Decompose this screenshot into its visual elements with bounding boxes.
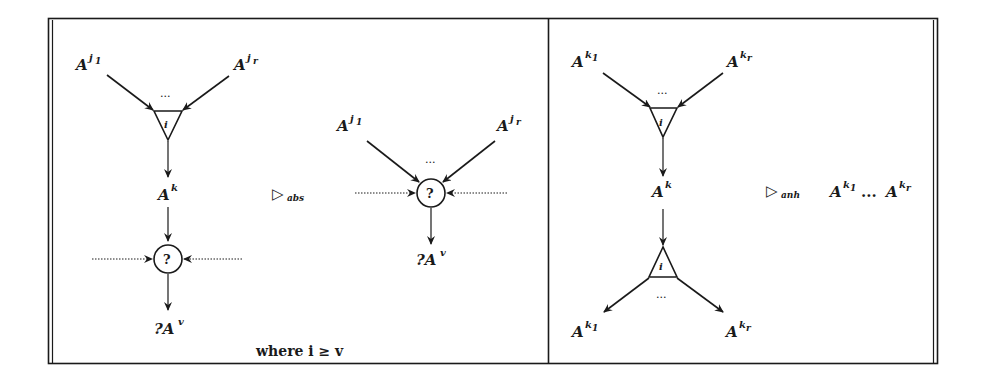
svg-text:A: A — [495, 117, 509, 135]
svg-text:...: ... — [861, 183, 877, 201]
edge-out-right — [677, 278, 723, 312]
svg-text:j: j — [348, 113, 354, 124]
rewrite-rules-diagram: A j 1 A j r ... i A k ? ?A v ▷ abs A j 1… — [0, 0, 987, 387]
svg-text:r: r — [253, 56, 259, 66]
figure-frame — [49, 18, 938, 364]
abs-rule-lhs: A j 1 A j r ... i A k ? ?A v — [74, 52, 259, 338]
svg-text:?: ? — [426, 186, 434, 201]
svg-text:A: A — [156, 186, 170, 204]
svg-text:j: j — [245, 52, 251, 63]
svg-text:i: i — [164, 119, 168, 130]
input-label-ajr: A — [232, 56, 246, 74]
svg-text:A: A — [570, 53, 584, 71]
edge-in-right — [183, 76, 229, 110]
svg-text:k: k — [665, 179, 672, 190]
edge-in-right — [678, 73, 723, 107]
anh-rule-lhs: A k 1 A k r ... i A k i ... A k 1 A k r — [570, 49, 753, 341]
svg-text:r: r — [747, 53, 753, 63]
svg-text:j: j — [508, 113, 514, 124]
triangle-node-top — [650, 108, 677, 137]
svg-text:k: k — [585, 319, 592, 330]
svg-text:anh: anh — [781, 190, 800, 200]
abs-rule-rhs: A j 1 A j r ... ? ?A v — [335, 113, 522, 269]
svg-text:A: A — [724, 323, 738, 341]
svg-text:abs: abs — [287, 193, 304, 203]
svg-text:1: 1 — [592, 53, 598, 63]
svg-text:?A: ?A — [154, 320, 174, 338]
anh-rule-rhs: A k 1 ... A k r — [828, 179, 912, 201]
svg-text:i: i — [659, 261, 663, 272]
svg-text:1: 1 — [356, 117, 362, 127]
edge-out-left — [604, 278, 649, 312]
triangle-node-bottom — [649, 247, 677, 277]
svg-text:k: k — [585, 49, 592, 60]
svg-text:j: j — [87, 52, 93, 63]
svg-text:k: k — [899, 179, 906, 190]
svg-text:1: 1 — [850, 183, 856, 193]
svg-text:...: ... — [425, 153, 436, 166]
svg-text:r: r — [906, 183, 912, 193]
edge-in-left — [603, 73, 650, 107]
svg-text:...: ... — [657, 84, 668, 97]
svg-text:A: A — [725, 53, 739, 71]
svg-text:k: k — [171, 182, 178, 193]
svg-text:1: 1 — [95, 56, 101, 66]
svg-text:v: v — [440, 247, 446, 258]
svg-text:i: i — [659, 117, 663, 128]
edge-in-right — [443, 141, 495, 182]
abs-rule-symbol: ▷ abs — [272, 185, 304, 203]
svg-text:k: k — [740, 49, 747, 60]
svg-text:...: ... — [656, 288, 667, 301]
svg-text:k: k — [843, 179, 850, 190]
svg-text:A: A — [884, 183, 898, 201]
svg-text:?A: ?A — [416, 251, 436, 269]
svg-text:A: A — [335, 117, 349, 135]
edge-in-left — [107, 75, 153, 110]
svg-text:k: k — [739, 319, 746, 330]
svg-text:r: r — [746, 323, 752, 333]
svg-text:...: ... — [160, 87, 171, 100]
svg-text:▷: ▷ — [272, 185, 284, 203]
svg-text:A: A — [650, 183, 664, 201]
side-condition: where i ≥ v — [255, 343, 344, 359]
svg-text:v: v — [178, 316, 184, 327]
triangle-node — [154, 111, 182, 140]
svg-text:A: A — [570, 323, 584, 341]
svg-text:A: A — [828, 183, 842, 201]
svg-text:?: ? — [163, 252, 171, 267]
edge-in-left — [367, 141, 419, 182]
svg-text:1: 1 — [592, 323, 598, 333]
anh-rule-symbol: ▷ anh — [766, 182, 800, 200]
svg-text:r: r — [516, 117, 522, 127]
input-label-aj1: A — [74, 56, 88, 74]
svg-text:▷: ▷ — [766, 182, 778, 200]
